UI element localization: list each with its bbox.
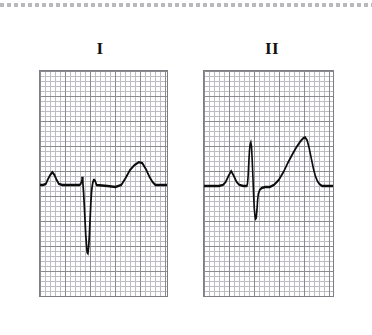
ecg-panel-lead-ii	[203, 70, 334, 297]
dashed-scan-line-icon	[0, 3, 372, 7]
ecg-waveform-lead-i	[40, 162, 167, 253]
lead-label-i: I	[72, 40, 128, 57]
ecg-figure: I II	[0, 0, 372, 335]
ecg-waveform-lead-ii	[204, 137, 333, 218]
ecg-panel-lead-i	[39, 70, 168, 297]
ecg-trace-lead-ii	[204, 71, 333, 296]
ecg-trace-lead-i	[40, 71, 167, 296]
lead-label-ii: II	[244, 40, 300, 57]
